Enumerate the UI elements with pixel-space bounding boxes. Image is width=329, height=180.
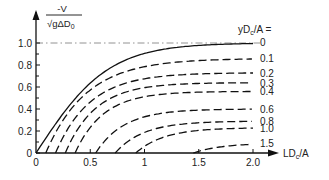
curves [36, 44, 253, 154]
curve-label-1-5: 1.5 [260, 138, 274, 149]
curve-label-0-6: 0.6 [260, 104, 274, 115]
x-tick-label: 2.0 [246, 157, 260, 168]
y-label-numerator: -V [57, 3, 67, 14]
curve-label-0-1: 0.1 [260, 53, 274, 64]
curve-0-4 [75, 92, 253, 154]
y-tick-label: 0.4 [18, 104, 32, 115]
curve-label-0: 0 [260, 37, 266, 48]
curve-0-8 [115, 121, 252, 153]
x-tick-label: 0 [33, 157, 39, 168]
curve-label-0-4: 0.4 [260, 86, 274, 97]
y-tick-label: 0.8 [18, 60, 32, 71]
curve-0-3 [65, 83, 252, 153]
curve-0 [36, 44, 253, 154]
chart: 00.20.40.60.81.000.511.52.000.10.20.30.4… [0, 0, 329, 180]
x-axis-arrow-icon [268, 150, 279, 157]
curve-0-2 [56, 73, 254, 153]
y-axis-arrow-icon [33, 10, 40, 20]
legend-title: yDc/A = [238, 24, 271, 36]
y-tick-label: 0.6 [18, 82, 32, 93]
curve-1-0 [136, 128, 253, 153]
y-label-denominator: √gΔD0 [47, 18, 75, 30]
x-tick-label: 0.5 [83, 157, 97, 168]
x-tick-label: 1.5 [192, 157, 206, 168]
x-tick-label: 1 [142, 157, 148, 168]
y-tick-label: 1.0 [18, 38, 32, 49]
curve-0-6 [96, 109, 252, 153]
y-tick-label: 0 [26, 148, 32, 159]
curve-1-5 [193, 144, 252, 153]
x-label: LDc/A [283, 148, 309, 160]
y-tick-label: 0.2 [18, 126, 32, 137]
curve-label-1-0: 1.0 [260, 123, 274, 134]
